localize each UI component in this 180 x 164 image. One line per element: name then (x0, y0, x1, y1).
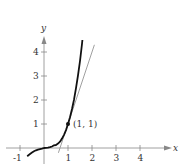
x-tick-label-2: 2 (90, 153, 96, 163)
x-axis-arrow-icon (164, 146, 172, 151)
y-axis-label: y (40, 23, 47, 33)
x-tick-label-1: 1 (66, 153, 72, 163)
x-tick-label-4: 4 (138, 153, 144, 163)
y-axis-arrow-icon (42, 36, 47, 44)
x-tick-label-3: 3 (114, 153, 120, 163)
point-label: (1, 1) (73, 119, 97, 129)
x-tick-label-neg1: -1 (13, 153, 22, 163)
point-marker (66, 122, 70, 126)
x-axis-label: x (173, 143, 178, 153)
chart-canvas: x y -1 1 2 3 4 1 2 3 4 (1, 1) (0, 0, 180, 164)
y-tick-label-2: 2 (33, 95, 39, 105)
y-tick-label-3: 3 (33, 71, 39, 81)
y-tick-label-1: 1 (33, 119, 39, 129)
y-tick-label-4: 4 (33, 47, 39, 57)
